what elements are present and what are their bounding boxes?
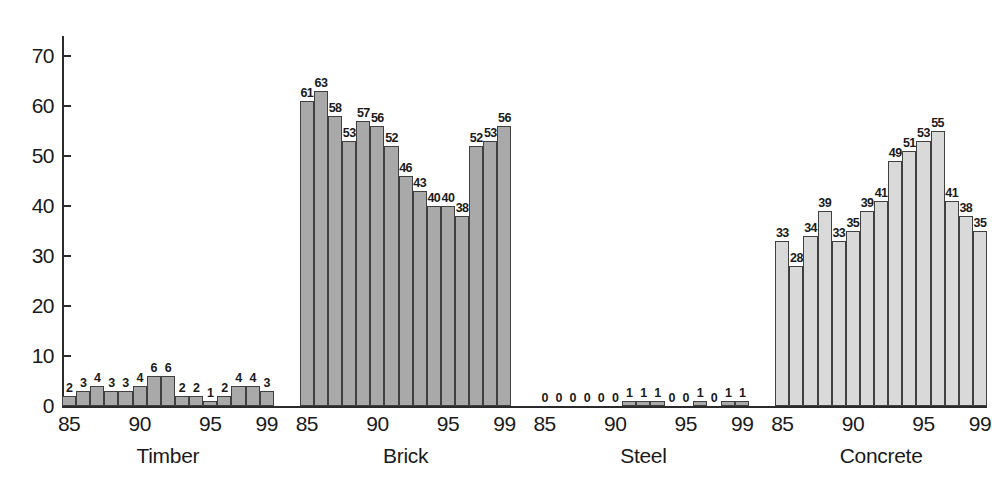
- x-axis-year-label: 99: [720, 413, 764, 435]
- bar: [832, 241, 846, 406]
- bar: [916, 141, 930, 406]
- bar: [874, 201, 888, 406]
- bar: [902, 151, 916, 406]
- group-axis-steel: 85909599Steel: [538, 409, 750, 487]
- bar: [217, 396, 231, 406]
- bar-value-label: 33: [772, 227, 792, 240]
- x-axis-year-label: 95: [188, 413, 232, 435]
- group-title-steel: Steel: [538, 445, 750, 467]
- bar: [118, 391, 132, 406]
- y-axis-tick-label: 10: [8, 345, 54, 366]
- bar-value-label: 38: [956, 202, 976, 215]
- bar: [846, 231, 860, 406]
- bar-group-concrete: 332834393335394149515355413835: [775, 36, 987, 406]
- group-axis-brick: 85909599Brick: [300, 409, 512, 487]
- bar: [300, 101, 314, 406]
- bar-value-label: 52: [381, 132, 401, 145]
- bar: [399, 176, 413, 406]
- bar: [427, 206, 441, 406]
- x-axis-year-label: 90: [355, 413, 399, 435]
- bar-value-label: 58: [325, 102, 345, 115]
- bar-value-label: 3: [257, 377, 277, 390]
- bar: [246, 386, 260, 406]
- bar: [973, 231, 987, 406]
- group-title-concrete: Concrete: [775, 445, 987, 467]
- bar: [147, 376, 161, 406]
- bar-value-label: 35: [970, 217, 990, 230]
- bar: [789, 266, 803, 406]
- bar: [622, 401, 636, 406]
- bar: [76, 391, 90, 406]
- bar-value-label: 63: [311, 77, 331, 90]
- bar: [959, 216, 973, 406]
- bar: [62, 396, 76, 406]
- bar-value-label: 41: [942, 187, 962, 200]
- bar: [260, 391, 274, 406]
- x-axis-year-label: 99: [482, 413, 526, 435]
- bar: [370, 126, 384, 406]
- bar-value-label: 39: [815, 197, 835, 210]
- bar: [483, 141, 497, 406]
- bar: [735, 401, 749, 406]
- y-axis-tick-label: 70: [8, 45, 54, 66]
- x-axis-year-label: 90: [118, 413, 162, 435]
- bar: [469, 146, 483, 406]
- bar: [133, 386, 147, 406]
- bar: [90, 386, 104, 406]
- bar-value-label: 6: [158, 362, 178, 375]
- bar-group-steel: 000000111001011: [538, 36, 750, 406]
- bar: [175, 396, 189, 406]
- bar-group-brick: 616358535756524643404038525356: [300, 36, 512, 406]
- x-axis-year-label: 90: [831, 413, 875, 435]
- x-axis-year-label: 99: [245, 413, 289, 435]
- bar-value-label: 1: [732, 387, 752, 400]
- bar: [497, 126, 511, 406]
- bar: [775, 241, 789, 406]
- x-axis-year-label: 95: [901, 413, 945, 435]
- x-axis-year-label: 95: [664, 413, 708, 435]
- bar: [314, 91, 328, 406]
- group-axis-concrete: 85909599Concrete: [775, 409, 987, 487]
- bar: [721, 401, 735, 406]
- bar-value-label: 46: [396, 162, 416, 175]
- x-axis-year-label: 85: [523, 413, 567, 435]
- x-axis-year-label: 85: [285, 413, 329, 435]
- bar: [203, 401, 217, 406]
- group-title-brick: Brick: [300, 445, 512, 467]
- bar: [945, 201, 959, 406]
- bar: [818, 211, 832, 406]
- y-axis-tick-label: 20: [8, 295, 54, 316]
- bar: [342, 141, 356, 406]
- y-axis-tick-label: 40: [8, 195, 54, 216]
- bar: [328, 116, 342, 406]
- bar-chart: 010203040506070 234334662212443616358535…: [0, 0, 992, 489]
- bar-value-label: 43: [410, 177, 430, 190]
- bar: [636, 401, 650, 406]
- bar: [931, 131, 945, 406]
- plot-area: 2343346622124436163585357565246434040385…: [62, 36, 987, 406]
- bar: [384, 146, 398, 406]
- bar: [104, 391, 118, 406]
- bar: [231, 386, 245, 406]
- bar-group-timber: 234334662212443: [62, 36, 274, 406]
- bar: [860, 211, 874, 406]
- x-axis-year-label: 85: [47, 413, 91, 435]
- x-axis-year-label: 90: [593, 413, 637, 435]
- bar: [888, 161, 902, 406]
- x-axis-year-label: 85: [760, 413, 804, 435]
- bar-value-label: 55: [928, 117, 948, 130]
- x-axis-year-label: 99: [958, 413, 992, 435]
- x-axis-year-label: 95: [426, 413, 470, 435]
- group-title-timber: Timber: [62, 445, 274, 467]
- bar: [803, 236, 817, 406]
- bar-value-label: 56: [494, 112, 514, 125]
- group-axis-timber: 85909599Timber: [62, 409, 274, 487]
- bar: [356, 121, 370, 406]
- y-axis-tick-label: 60: [8, 95, 54, 116]
- x-axis-line: [62, 406, 987, 408]
- bar-value-label: 56: [367, 112, 387, 125]
- bar: [413, 191, 427, 406]
- y-axis-tick-label: 50: [8, 145, 54, 166]
- bar: [441, 206, 455, 406]
- bar: [455, 216, 469, 406]
